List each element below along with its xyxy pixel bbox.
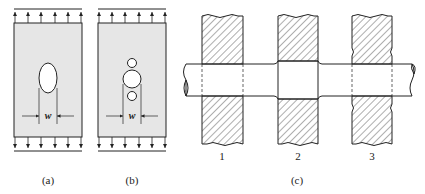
tension-arrows-top (15, 12, 81, 23)
small-hole-bottom (128, 92, 137, 101)
hidden-lines (202, 64, 392, 96)
caption-c: (c) (291, 174, 304, 187)
panel-b: w (b) (98, 9, 166, 187)
width-label-b: w (129, 110, 136, 121)
tension-arrows-bottom (15, 137, 81, 148)
block-label-1: 1 (219, 150, 225, 162)
width-label-a: w (45, 110, 52, 121)
block-3 (352, 15, 392, 146)
small-hole-top (128, 59, 137, 68)
caption-a: (a) (42, 174, 55, 187)
panel-c: 1 2 3 (c) (184, 15, 416, 188)
tension-arrows-bottom (99, 137, 165, 148)
block-label-3: 3 (369, 150, 375, 162)
caption-b: (b) (126, 174, 139, 187)
block-2 (278, 15, 318, 146)
block-1 (202, 15, 243, 146)
panel-a: w (a) (14, 9, 82, 187)
shaft (184, 61, 416, 99)
figure-canvas: w (a) (0, 0, 425, 194)
block-label-2: 2 (295, 150, 301, 162)
tension-arrows-top (99, 12, 165, 23)
large-hole (123, 70, 141, 88)
elliptical-hole (39, 63, 57, 93)
